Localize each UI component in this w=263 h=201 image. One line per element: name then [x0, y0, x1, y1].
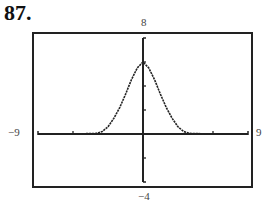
- axes: [38, 38, 248, 182]
- graph-window: [0, 0, 263, 201]
